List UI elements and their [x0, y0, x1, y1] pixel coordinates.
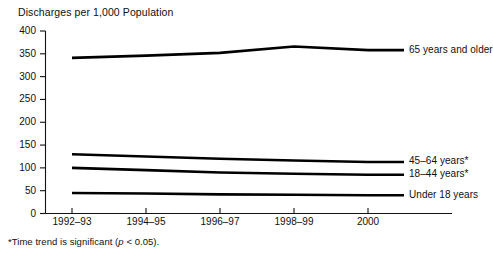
chart-axes	[46, 31, 453, 214]
x-tick-label: 2000	[357, 216, 379, 227]
y-tick-label: 350	[2, 48, 36, 59]
footnote-suffix: < 0.05).	[124, 236, 160, 247]
series-label: 18–44 years*	[409, 168, 469, 179]
series-label: 65 years and older	[409, 44, 493, 55]
chart-label-leaders	[368, 50, 404, 195]
y-tick-label: 400	[2, 25, 36, 36]
x-tick-label: 1994–95	[127, 216, 166, 227]
y-tick-label: 250	[2, 93, 36, 104]
series-line	[72, 154, 368, 162]
y-tick-label: 150	[2, 139, 36, 150]
y-tick-label: 0	[2, 208, 36, 219]
series-line	[72, 168, 368, 175]
y-tick-label: 300	[2, 71, 36, 82]
y-tick-label: 50	[2, 185, 36, 196]
y-axis-ticks	[40, 31, 46, 214]
series-line	[72, 47, 368, 58]
x-tick-label: 1996–97	[201, 216, 240, 227]
series-label: Under 18 years	[409, 189, 478, 200]
y-tick-label: 100	[2, 162, 36, 173]
footnote-prefix: *Time trend is significant (	[8, 236, 118, 247]
chart-footnote: *Time trend is significant (p < 0.05).	[8, 236, 159, 247]
series-label: 45–64 years*	[409, 155, 469, 166]
chart-series-lines	[72, 47, 368, 196]
x-axis-ticks	[72, 208, 368, 214]
x-tick-label: 1998–99	[275, 216, 314, 227]
series-line	[72, 193, 368, 195]
x-tick-label: 1992–93	[53, 216, 92, 227]
y-tick-label: 200	[2, 116, 36, 127]
